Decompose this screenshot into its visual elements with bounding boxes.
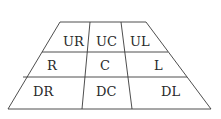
area-label-up-left: UL xyxy=(130,34,150,49)
area-label-down-center: DC xyxy=(96,84,116,99)
area-label-up-center: UC xyxy=(96,34,117,49)
area-label-right: R xyxy=(47,58,58,73)
area-label-up-right: UR xyxy=(63,34,85,49)
area-label-left: L xyxy=(154,58,163,73)
area-label-center: C xyxy=(100,58,110,73)
area-label-down-left: DL xyxy=(161,84,180,99)
stage-diagram: UR UC UL R C L DR DC DL xyxy=(0,0,221,119)
area-label-down-right: DR xyxy=(33,84,54,99)
